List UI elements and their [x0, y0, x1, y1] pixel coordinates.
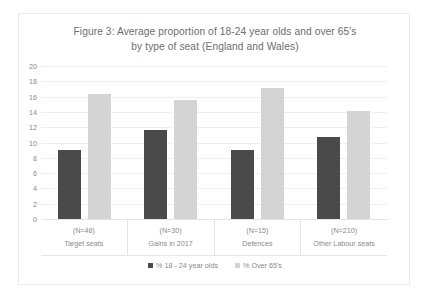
bar [231, 150, 254, 219]
y-tick-label-10: 10 [29, 138, 37, 147]
legend-label: % 18 - 24 year olds [156, 261, 218, 270]
y-tick-label-12: 12 [29, 123, 37, 132]
legend-item[interactable]: % 18 - 24 year olds [148, 261, 218, 270]
category-cell: (N=15)Defences [214, 220, 301, 255]
chart-title-line-2: by type of seat (England and Wales) [19, 39, 411, 54]
bar [317, 137, 340, 219]
bar-series-area [41, 66, 387, 219]
y-tick-label-8: 8 [33, 153, 37, 162]
y-axis-tick-labels: 02468101214161820 [19, 66, 41, 219]
bar [88, 94, 111, 219]
legend-label: % Over 65's [243, 261, 282, 270]
category-cell: (N=210)Other Labour seats [300, 220, 387, 255]
legend-swatch-icon [235, 263, 240, 268]
category-count-label: (N=48) [41, 224, 127, 237]
category-name-label: Gains in 2017 [128, 237, 214, 251]
y-tick-label-6: 6 [33, 169, 37, 178]
bar-group [128, 66, 215, 219]
y-tick-label-18: 18 [29, 77, 37, 86]
category-name-label: Other Labour seats [301, 237, 387, 251]
bar-group [301, 66, 388, 219]
chart-title-line-1: Figure 3: Average proportion of 18-24 ye… [19, 24, 411, 39]
chart-title: Figure 3: Average proportion of 18-24 ye… [19, 24, 411, 54]
category-count-label: (N=210) [301, 224, 387, 237]
bar [174, 100, 197, 219]
y-tick-label-0: 0 [33, 215, 37, 224]
category-cell: (N=30)Gains in 2017 [127, 220, 214, 255]
y-tick-label-16: 16 [29, 92, 37, 101]
category-axis: (N=48)Target seats(N=30)Gains in 2017(N=… [41, 220, 387, 256]
y-tick-label-4: 4 [33, 184, 37, 193]
category-name-label: Defences [215, 237, 301, 251]
legend-item[interactable]: % Over 65's [235, 261, 282, 270]
bar [144, 130, 167, 219]
y-tick-label-20: 20 [29, 62, 37, 71]
bar [58, 150, 81, 219]
category-cell: (N=48)Target seats [41, 220, 127, 255]
category-name-label: Target seats [41, 237, 127, 251]
y-tick-label-2: 2 [33, 199, 37, 208]
y-tick-label-14: 14 [29, 107, 37, 116]
category-count-label: (N=15) [215, 224, 301, 237]
chart-legend: % 18 - 24 year olds% Over 65's [19, 261, 411, 270]
bar-group [214, 66, 301, 219]
legend-swatch-icon [148, 263, 153, 268]
chart-container: Figure 3: Average proportion of 18-24 ye… [18, 13, 410, 285]
bar [347, 111, 370, 219]
category-count-label: (N=30) [128, 224, 214, 237]
bar-group [41, 66, 128, 219]
bar [261, 88, 284, 219]
